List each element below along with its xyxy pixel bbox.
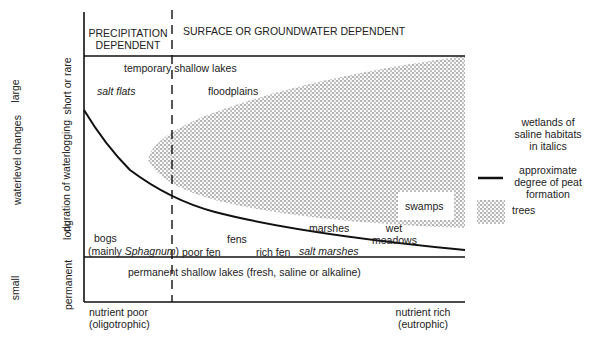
bogs-sub-sphagnum: Sphagnum bbox=[125, 245, 176, 257]
x-left-2: (oligotrophic) bbox=[89, 318, 150, 330]
y-outer-top: large bbox=[9, 66, 21, 116]
bogs-sub-c: ) bbox=[176, 245, 180, 257]
precipitation-label-1: PRECIPITATION bbox=[86, 27, 170, 39]
header-surface: SURFACE OR GROUNDWATER DEPENDENT bbox=[183, 25, 405, 37]
label-salt-flats: salt flats bbox=[97, 85, 136, 97]
y-inner-mid: long bbox=[61, 215, 73, 245]
x-left: nutrient poor (oligotrophic) bbox=[89, 306, 150, 330]
y-outer-label: waterlevel changes bbox=[11, 110, 23, 210]
y-inner-bottom: permanent bbox=[62, 255, 74, 315]
label-rich-fen: rich fen bbox=[256, 246, 290, 258]
legend-italics-1: wetlands of bbox=[506, 116, 590, 128]
x-right-2: (eutrophic) bbox=[388, 318, 458, 330]
label-bogs: bogs bbox=[94, 232, 117, 244]
x-right-1: nutrient rich bbox=[388, 306, 458, 318]
legend-italics-2: saline habitats bbox=[506, 128, 590, 140]
precipitation-label-2: DEPENDENT bbox=[86, 39, 170, 51]
legend-peat-2: degree of peat bbox=[506, 176, 590, 188]
y-outer-bottom: small bbox=[9, 263, 21, 313]
legend-trees: trees bbox=[512, 204, 535, 216]
bogs-sub-a: (mainly bbox=[88, 245, 125, 257]
legend-peat-1: approximate bbox=[506, 164, 590, 176]
wet-meadows-2: meadows bbox=[372, 234, 416, 246]
label-bogs-sub: (mainly Sphagnum) bbox=[88, 245, 179, 257]
legend-italics-note: wetlands of saline habitats in italics bbox=[506, 116, 590, 152]
label-swamps: swamps bbox=[405, 200, 444, 212]
label-temporary-lakes: temporary shallow lakes bbox=[124, 62, 237, 74]
label-poor-fen: poor fen bbox=[182, 246, 221, 258]
legend-italics-3: in italics bbox=[506, 140, 590, 152]
label-fens: fens bbox=[227, 233, 247, 245]
wet-meadows-1: wet bbox=[372, 222, 416, 234]
legend-peat-3: formation bbox=[506, 188, 590, 200]
x-right: nutrient rich (eutrophic) bbox=[388, 306, 458, 330]
legend-peat: approximate degree of peat formation bbox=[506, 164, 590, 200]
x-left-1: nutrient poor bbox=[89, 306, 150, 318]
header-precipitation: PRECIPITATION DEPENDENT bbox=[86, 27, 170, 51]
label-marshes: marshes bbox=[309, 222, 349, 234]
label-permanent-lakes: permanent shallow lakes (fresh, saline o… bbox=[128, 266, 361, 278]
label-wet-meadows: wet meadows bbox=[372, 222, 416, 246]
label-salt-marshes: salt marshes bbox=[299, 245, 359, 257]
label-floodplains: floodplains bbox=[208, 85, 258, 97]
